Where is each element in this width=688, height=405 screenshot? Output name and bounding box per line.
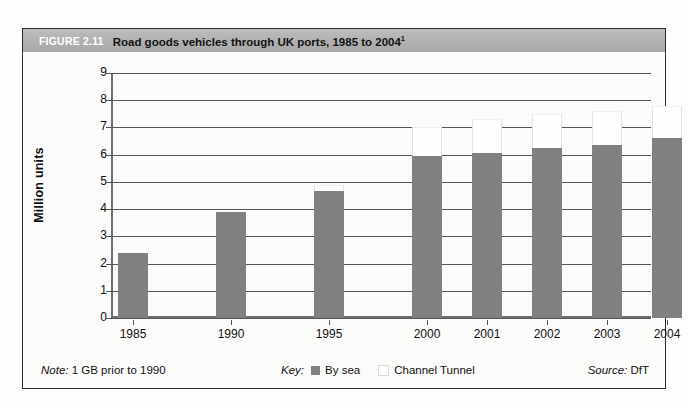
- figure-source: Source: DfT: [588, 364, 649, 376]
- bar-segment-channel-tunnel: [472, 119, 502, 153]
- y-tick-label: 3: [87, 228, 107, 242]
- bar-2001: [472, 119, 502, 318]
- bar-1990: [216, 212, 246, 318]
- figure-header: FIGURE 2.11 Road goods vehicles through …: [23, 29, 665, 52]
- bar-2002: [532, 114, 562, 318]
- x-tick-mark: [667, 320, 668, 325]
- bar-2000: [412, 127, 442, 318]
- figure-note: Note: 1 GB prior to 1990: [41, 364, 166, 376]
- gridline: [111, 209, 651, 210]
- legend-swatch-by-sea: [311, 366, 320, 375]
- bar-segment-by-sea: [532, 148, 562, 318]
- x-tick-mark: [607, 320, 608, 325]
- bar-segment-channel-tunnel: [412, 127, 442, 156]
- x-axis-tick-labels: 19851990199520002001200220032004: [111, 320, 651, 344]
- bar-segment-by-sea: [472, 153, 502, 318]
- x-tick-label: 2001: [457, 327, 517, 341]
- y-tick-mark: [106, 318, 112, 319]
- x-tick-mark: [231, 320, 232, 325]
- legend-label: Key:: [281, 364, 304, 376]
- bar-2003: [592, 111, 622, 318]
- bar-segment-by-sea: [652, 138, 682, 318]
- x-tick-mark: [427, 320, 428, 325]
- x-tick-label: 2004: [637, 327, 688, 341]
- x-tick-mark: [487, 320, 488, 325]
- y-tick-label: 4: [87, 201, 107, 215]
- gridline: [111, 100, 651, 101]
- x-tick-label: 2003: [577, 327, 637, 341]
- y-tick-mark: [106, 291, 112, 292]
- bar-segment-by-sea: [314, 191, 344, 318]
- bar-segment-channel-tunnel: [652, 106, 682, 139]
- bar-segment-channel-tunnel: [532, 114, 562, 148]
- y-tick-mark: [106, 100, 112, 101]
- chart-axes: [111, 73, 651, 318]
- gridline: [111, 182, 651, 183]
- gridline: [111, 318, 651, 319]
- gridline: [111, 236, 651, 237]
- y-axis-line: [111, 73, 113, 318]
- y-tick-label: 8: [87, 92, 107, 106]
- x-tick-mark: [547, 320, 548, 325]
- x-tick-label: 1995: [299, 327, 359, 341]
- y-axis-tick-labels: 0123456789: [87, 73, 107, 318]
- chart-legend: Key: By sea Channel Tunnel: [281, 364, 493, 376]
- bar-1995: [314, 185, 344, 318]
- y-tick-label: 5: [87, 174, 107, 188]
- source-text: DfT: [627, 364, 649, 376]
- y-tick-mark: [106, 127, 112, 128]
- x-tick-label: 1985: [103, 327, 163, 341]
- gridline: [111, 127, 651, 128]
- y-tick-mark: [106, 155, 112, 156]
- x-tick-mark: [329, 320, 330, 325]
- y-tick-label: 9: [87, 65, 107, 79]
- figure-number: FIGURE 2.11: [39, 35, 104, 47]
- figure-frame: FIGURE 2.11 Road goods vehicles through …: [22, 28, 666, 389]
- y-tick-label: 0: [87, 310, 107, 324]
- y-tick-mark: [106, 236, 112, 237]
- legend-item-by-sea: By sea: [311, 364, 360, 376]
- y-axis-label: Million units: [32, 130, 46, 240]
- figure-title: Road goods vehicles through UK ports, 19…: [113, 34, 405, 48]
- legend-item-channel-tunnel: Channel Tunnel: [378, 364, 475, 376]
- source-label: Source:: [588, 364, 628, 376]
- legend-swatch-channel-tunnel: [378, 365, 389, 376]
- note-text: 1 GB prior to 1990: [69, 364, 166, 376]
- x-tick-label: 2000: [397, 327, 457, 341]
- bar-segment-channel-tunnel: [314, 185, 344, 192]
- x-tick-label: 1990: [201, 327, 261, 341]
- legend-text-by-sea: By sea: [325, 364, 360, 376]
- figure-title-text: Road goods vehicles through UK ports, 19…: [113, 35, 401, 47]
- chart-plot-area: Million units 0123456789 198519901995200…: [23, 52, 667, 352]
- figure-page: FIGURE 2.11 Road goods vehicles through …: [0, 0, 688, 405]
- gridline: [111, 264, 651, 265]
- bar-2004: [652, 106, 682, 318]
- note-label: Note:: [41, 364, 69, 376]
- y-tick-mark: [106, 264, 112, 265]
- y-tick-mark: [106, 209, 112, 210]
- y-tick-mark: [106, 73, 112, 74]
- y-tick-label: 1: [87, 283, 107, 297]
- gridline: [111, 291, 651, 292]
- bar-segment-by-sea: [412, 156, 442, 318]
- bar-segment-channel-tunnel: [592, 111, 622, 145]
- x-tick-label: 2002: [517, 327, 577, 341]
- y-tick-label: 2: [87, 256, 107, 270]
- x-tick-mark: [133, 320, 134, 325]
- figure-title-superscript: 1: [401, 34, 405, 43]
- gridline: [111, 73, 651, 74]
- bar-segment-by-sea: [118, 253, 148, 318]
- bar-segment-by-sea: [592, 145, 622, 318]
- bar-1985: [118, 253, 148, 318]
- bar-segment-by-sea: [216, 212, 246, 318]
- gridline: [111, 155, 651, 156]
- y-tick-label: 6: [87, 147, 107, 161]
- y-tick-mark: [106, 182, 112, 183]
- legend-text-channel-tunnel: Channel Tunnel: [394, 364, 475, 376]
- figure-footer: Note: 1 GB prior to 1990 Key: By sea Cha…: [23, 352, 667, 388]
- y-tick-label: 7: [87, 119, 107, 133]
